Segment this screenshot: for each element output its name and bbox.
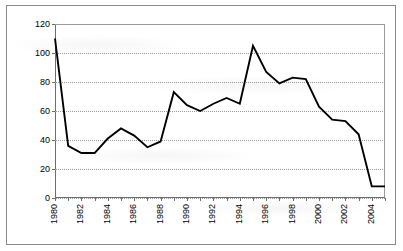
- x-tick-label-1996: 1996: [261, 204, 270, 224]
- y-tick-label-20: 20: [40, 165, 50, 174]
- series-plot: [55, 24, 385, 198]
- x-tick-mark-1991: [200, 198, 201, 201]
- x-tick-mark-2002: [345, 198, 346, 201]
- x-tick-mark-1995: [253, 198, 254, 201]
- x-tick-label-1998: 1998: [288, 204, 297, 224]
- x-tick-mark-1989: [174, 198, 175, 201]
- x-tick-label-1994: 1994: [235, 204, 244, 224]
- y-tick-label-60: 60: [40, 107, 50, 116]
- series-line-1: [55, 39, 385, 187]
- x-tick-label-2000: 2000: [314, 204, 323, 224]
- y-tick-label-100: 100: [35, 49, 50, 58]
- x-tick-mark-1996: [266, 198, 267, 201]
- x-tick-mark-1985: [121, 198, 122, 201]
- figure-border: 020406080100120 198019821984198619881990…: [6, 5, 396, 245]
- x-tick-mark-1983: [95, 198, 96, 201]
- x-tick-mark-2003: [359, 198, 360, 201]
- x-tick-label-1984: 1984: [103, 204, 112, 224]
- chart-figure: 020406080100120 198019821984198619881990…: [0, 0, 403, 251]
- x-tick-label-1992: 1992: [208, 204, 217, 224]
- x-tick-mark-1993: [227, 198, 228, 201]
- x-tick-mark-1992: [213, 198, 214, 201]
- plot-area: 020406080100120 198019821984198619881990…: [55, 24, 385, 198]
- x-tick-mark-1997: [279, 198, 280, 201]
- x-tick-label-2004: 2004: [367, 204, 376, 224]
- x-tick-mark-1994: [240, 198, 241, 201]
- x-tick-mark-1987: [147, 198, 148, 201]
- x-tick-mark-1982: [81, 198, 82, 201]
- x-tick-mark-1980: [55, 198, 56, 201]
- y-tick-label-120: 120: [35, 20, 50, 29]
- x-tick-mark-2005: [385, 198, 386, 201]
- y-tick-label-40: 40: [40, 136, 50, 145]
- x-tick-mark-2000: [319, 198, 320, 201]
- x-tick-label-1988: 1988: [156, 204, 165, 224]
- x-tick-mark-1988: [161, 198, 162, 201]
- x-tick-mark-1984: [108, 198, 109, 201]
- x-tick-mark-1998: [293, 198, 294, 201]
- x-tick-mark-2004: [372, 198, 373, 201]
- x-tick-mark-1986: [134, 198, 135, 201]
- y-tick-label-80: 80: [40, 78, 50, 87]
- gridline-0: [55, 198, 385, 199]
- x-tick-label-1990: 1990: [182, 204, 191, 224]
- x-tick-label-1982: 1982: [76, 204, 85, 224]
- x-tick-label-1980: 1980: [50, 204, 59, 224]
- x-tick-label-2002: 2002: [340, 204, 349, 224]
- x-tick-mark-1990: [187, 198, 188, 201]
- x-tick-mark-2001: [332, 198, 333, 201]
- x-tick-label-1986: 1986: [129, 204, 138, 224]
- x-tick-mark-1981: [68, 198, 69, 201]
- y-tick-label-0: 0: [45, 194, 50, 203]
- x-tick-mark-1999: [306, 198, 307, 201]
